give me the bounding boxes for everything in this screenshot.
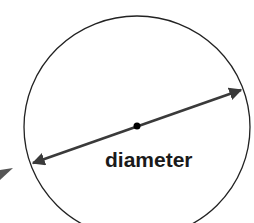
circle-diameter-diagram: diameter [0, 0, 254, 223]
diameter-label: diameter [105, 148, 193, 171]
circle-outline [24, 16, 250, 223]
partial-arrow-icon [0, 168, 13, 180]
center-point [134, 123, 141, 130]
